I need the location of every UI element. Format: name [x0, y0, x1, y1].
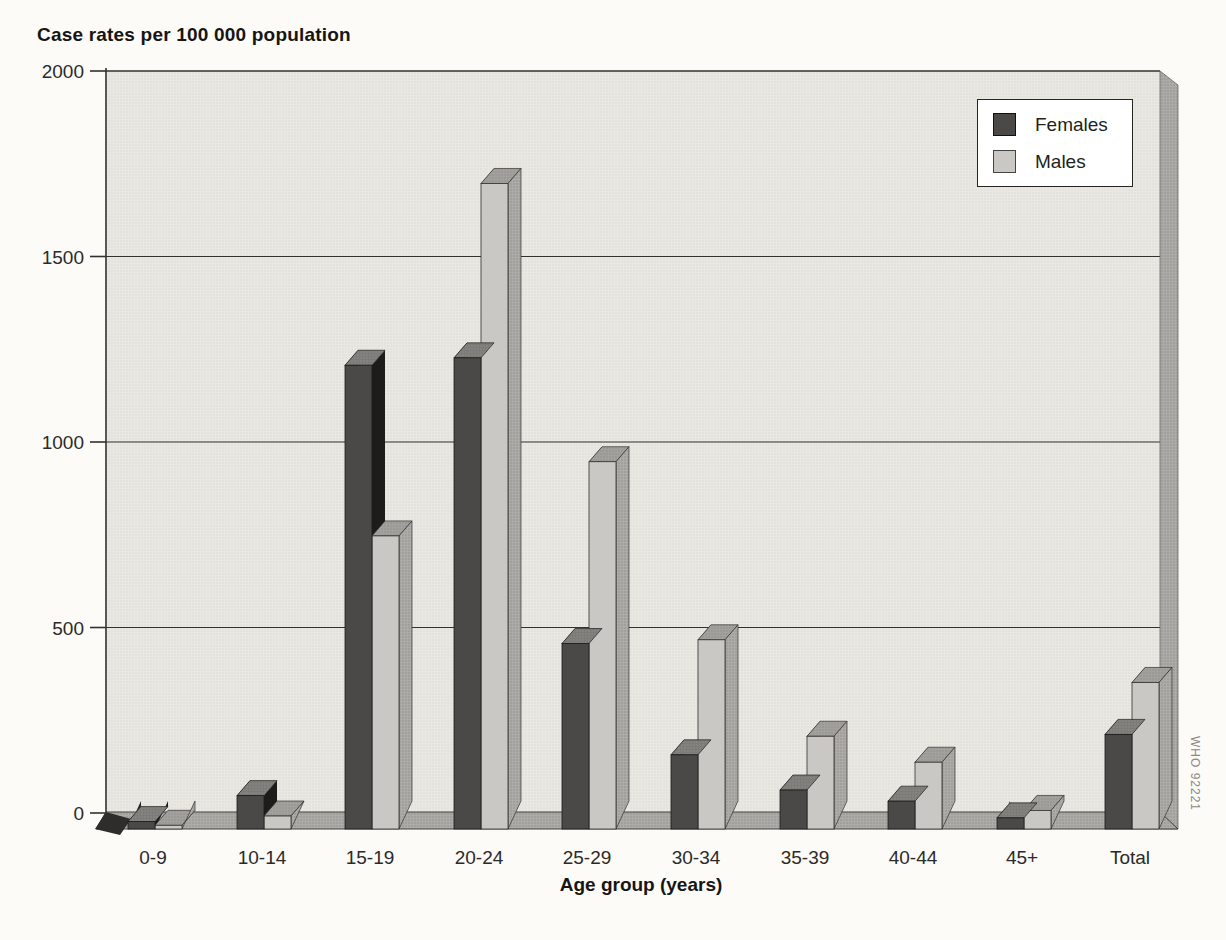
bar-females-30-34 [671, 755, 698, 829]
x-tick-label-30-34: 30-34 [672, 847, 721, 868]
legend-item-males: Males [993, 150, 1132, 173]
bar-females-25-29 [562, 644, 589, 830]
bar-females-0-9 [128, 822, 155, 829]
bar-males-side-20-24 [508, 168, 521, 829]
bar-males-0-9 [155, 825, 182, 829]
x-tick-label-0-9: 0-9 [139, 847, 166, 868]
legend-item-females: Females [993, 113, 1132, 136]
y-tick-label-1000: 1000 [42, 432, 84, 453]
bar-males-side-30-34 [725, 625, 738, 829]
x-tick-label-20-24: 20-24 [455, 847, 504, 868]
y-tick-label-0: 0 [73, 803, 84, 824]
x-tick-label-10-14: 10-14 [238, 847, 287, 868]
x-tick-label-15-19: 15-19 [346, 847, 395, 868]
watermark: WHO 92221 [1188, 736, 1202, 846]
bar-females-15-19 [345, 365, 372, 829]
legend: Females Males [977, 99, 1133, 187]
bar-females-45+ [997, 818, 1024, 829]
bar-females-35-39 [780, 790, 807, 829]
bar-females-Total [1105, 734, 1132, 829]
bar-females-40-44 [888, 801, 915, 829]
bar-males-side-Total [1159, 667, 1172, 829]
bar-males-30-34 [698, 640, 725, 829]
x-tick-label-40-44: 40-44 [889, 847, 938, 868]
bar-males-25-29 [589, 462, 616, 829]
bar-females-20-24 [454, 358, 481, 829]
x-tick-label-35-39: 35-39 [781, 847, 830, 868]
males-swatch-icon [993, 150, 1016, 173]
x-tick-label-45+: 45+ [1006, 847, 1038, 868]
x-axis-title: Age group (years) [521, 874, 761, 896]
y-tick-label-500: 500 [52, 618, 84, 639]
bar-males-10-14 [264, 816, 291, 829]
males-legend-label: Males [1035, 151, 1086, 173]
bar-females-10-14 [237, 796, 264, 829]
y-tick-label-1500: 1500 [42, 247, 84, 268]
females-swatch-icon [993, 113, 1016, 136]
bar-males-15-19 [372, 536, 399, 829]
x-tick-label-Total: Total [1110, 847, 1150, 868]
bar-males-20-24 [481, 183, 508, 829]
x-tick-label-25-29: 25-29 [563, 847, 612, 868]
y-tick-label-2000: 2000 [42, 61, 84, 82]
bar-males-side-15-19 [399, 521, 412, 829]
bar-males-Total [1132, 682, 1159, 829]
bar-males-side-25-29 [616, 447, 629, 829]
females-legend-label: Females [1035, 114, 1108, 136]
